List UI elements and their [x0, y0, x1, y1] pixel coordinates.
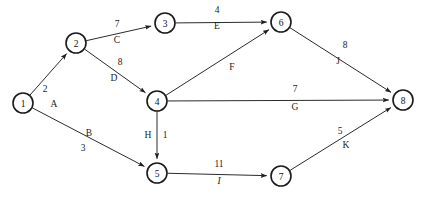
edge-name-F: F [229, 62, 234, 72]
edge-7-to-8 [290, 108, 391, 171]
edge-name-B: B [86, 128, 92, 138]
node-5[interactable]: 5 [147, 163, 167, 183]
edge-weight-K: 5 [338, 126, 343, 136]
edge-weight-D: 8 [118, 57, 123, 67]
edge-labels-layer: 2A3B7C8D4EF7G1H11I8J5K [43, 5, 350, 186]
node-6[interactable]: 6 [271, 12, 291, 32]
edge-weight-C: 7 [115, 19, 120, 29]
node-label-1: 1 [21, 99, 26, 109]
edge-weight-G: 7 [293, 84, 298, 94]
node-4[interactable]: 4 [147, 91, 167, 111]
edge-name-I: I [216, 176, 221, 186]
edge-name-E: E [214, 21, 220, 31]
node-3[interactable]: 3 [155, 13, 175, 33]
node-label-3: 3 [163, 19, 168, 29]
edge-name-C: C [114, 35, 120, 45]
node-label-4: 4 [155, 97, 160, 107]
node-7[interactable]: 7 [271, 166, 291, 186]
edge-4-to-8 [167, 100, 388, 101]
node-label-5: 5 [155, 169, 160, 179]
edge-weight-E: 4 [215, 5, 220, 15]
edge-name-H: H [145, 130, 152, 140]
edge-weight-I: 11 [214, 159, 223, 169]
edge-2-to-4 [85, 49, 146, 93]
edge-name-K: K [343, 140, 350, 150]
edge-weight-H: 1 [163, 130, 168, 140]
edge-1-to-2 [30, 54, 67, 95]
edge-name-D: D [111, 73, 118, 83]
graph-svg: 2A3B7C8D4EF7G1H11I8J5K 12345678 [0, 0, 427, 201]
node-1[interactable]: 1 [13, 93, 33, 113]
edge-name-J: J [336, 56, 340, 66]
node-2[interactable]: 2 [66, 33, 86, 53]
node-label-8: 8 [401, 96, 406, 106]
edge-weight-J: 8 [343, 40, 348, 50]
node-8[interactable]: 8 [393, 90, 413, 110]
edge-3-to-6 [175, 22, 266, 23]
edge-weight-B: 3 [81, 143, 86, 153]
edge-name-G: G [292, 102, 299, 112]
node-label-7: 7 [279, 172, 284, 182]
node-label-6: 6 [279, 18, 284, 28]
edge-6-to-8 [290, 28, 391, 93]
node-label-2: 2 [74, 39, 79, 49]
graph-diagram-canvas: 2A3B7C8D4EF7G1H11I8J5K 12345678 [0, 0, 427, 201]
edge-name-A: A [51, 99, 58, 109]
nodes-layer: 12345678 [13, 12, 413, 186]
edge-4-to-6 [166, 30, 269, 96]
edge-weight-A: 2 [43, 84, 48, 94]
